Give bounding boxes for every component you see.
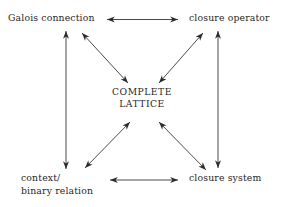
diagram-canvas: Galois connection closure operator COMPL… xyxy=(0,0,282,207)
node-complete-lattice-label-line1: COMPLETE xyxy=(106,86,178,98)
node-context-binary-relation-label-line1: context/ xyxy=(21,172,93,185)
edge-diagonal-top-left xyxy=(82,33,128,83)
node-galois-connection-label: Galois connection xyxy=(8,12,95,25)
node-context-binary-relation-label-line2: binary relation xyxy=(21,185,93,198)
edge-diagonal-bottom-left xyxy=(85,122,130,168)
edge-diagonal-top-right xyxy=(159,33,203,83)
node-closure-system: closure system xyxy=(189,172,261,185)
node-galois-connection: Galois connection xyxy=(8,12,95,25)
edge-diagonal-bottom-right xyxy=(159,122,206,170)
node-closure-operator-label: closure operator xyxy=(189,12,270,25)
node-complete-lattice: COMPLETE LATTICE xyxy=(106,86,178,110)
node-closure-system-label: closure system xyxy=(189,172,261,185)
node-closure-operator: closure operator xyxy=(189,12,270,25)
node-complete-lattice-label-line2: LATTICE xyxy=(106,98,178,110)
node-context-binary-relation: context/ binary relation xyxy=(21,172,93,197)
